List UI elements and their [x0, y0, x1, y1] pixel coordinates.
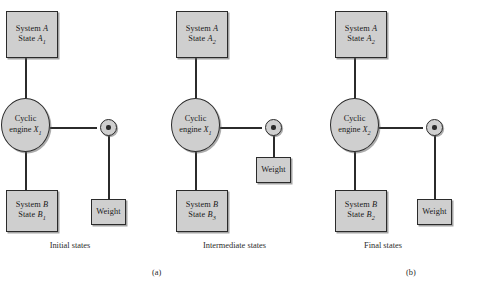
- engine-line1: Cyclic: [15, 114, 37, 125]
- rope-pulley-weight: [434, 134, 436, 199]
- system-a-line1: System A: [16, 24, 48, 34]
- system-b-line1: System B: [186, 200, 218, 210]
- system-b-line2: State B1: [18, 210, 46, 221]
- system-a-line1: System A: [186, 24, 218, 34]
- connector-engine-systemb: [25, 152, 27, 190]
- connector-systema-engine: [195, 58, 197, 98]
- system-a-line2: State A2: [347, 34, 375, 45]
- cyclic-engine-circle: Cyclic engine X1: [171, 98, 220, 152]
- connector-engine-pulley: [220, 127, 262, 129]
- engine-line1: Cyclic: [185, 114, 207, 125]
- rope-pulley-weight: [273, 134, 275, 157]
- weight-box: Weight: [91, 199, 126, 225]
- system-a-box: System A State A1: [6, 11, 58, 58]
- system-b-box: System B State B2: [335, 190, 387, 232]
- rope-pulley-weight: [108, 134, 110, 199]
- connector-systema-engine: [354, 58, 356, 98]
- pulley-icon: [100, 119, 117, 136]
- sublabel-a: (a): [152, 268, 161, 277]
- system-b-line2: State B3: [188, 210, 216, 221]
- panel-initial-states: System A State A1 Cyclic engine X1 Syste…: [0, 0, 165, 291]
- panel-caption: Intermediate states: [162, 241, 307, 250]
- weight-box: Weight: [256, 157, 291, 183]
- cyclic-engine-circle: Cyclic engine X1: [1, 98, 50, 152]
- connector-engine-systemb: [195, 152, 197, 190]
- connector-engine-systemb: [354, 152, 356, 190]
- weight-label: Weight: [261, 165, 285, 175]
- weight-label: Weight: [96, 207, 120, 217]
- system-b-line2: State B2: [347, 210, 375, 221]
- connector-engine-pulley: [50, 127, 97, 129]
- system-b-box: System B State B3: [176, 190, 228, 232]
- engine-line1: Cyclic: [344, 114, 366, 125]
- system-b-line1: System B: [345, 200, 377, 210]
- system-a-box: System A State A2: [176, 11, 228, 58]
- system-b-line1: System B: [16, 200, 48, 210]
- system-a-box: System A State A2: [335, 11, 387, 58]
- engine-line2: engine X1: [9, 125, 41, 137]
- system-a-line2: State A2: [188, 34, 216, 45]
- connector-engine-pulley: [379, 127, 423, 129]
- pulley-icon: [426, 119, 443, 136]
- system-b-box: System B State B1: [6, 190, 58, 232]
- connector-systema-engine: [25, 58, 27, 98]
- system-a-line1: System A: [345, 24, 377, 34]
- panel-intermediate-states: System A State A2 Cyclic engine X1 Syste…: [165, 0, 310, 291]
- panel-caption: Final states: [328, 241, 438, 250]
- cyclic-engine-circle: Cyclic engine X2: [330, 98, 379, 152]
- thermodynamic-cycle-figure: System A State A1 Cyclic engine X1 Syste…: [0, 0, 484, 291]
- system-a-line2: State A1: [18, 34, 46, 45]
- panel-caption: Initial states: [0, 241, 140, 250]
- panel-final-states: System A State A2 Cyclic engine X2 Syste…: [310, 0, 484, 291]
- engine-line2: engine X1: [179, 125, 211, 137]
- weight-box: Weight: [417, 199, 452, 225]
- sublabel-b: (b): [406, 268, 416, 277]
- pulley-icon: [265, 119, 282, 136]
- weight-label: Weight: [422, 207, 446, 217]
- engine-line2: engine X2: [338, 125, 370, 137]
